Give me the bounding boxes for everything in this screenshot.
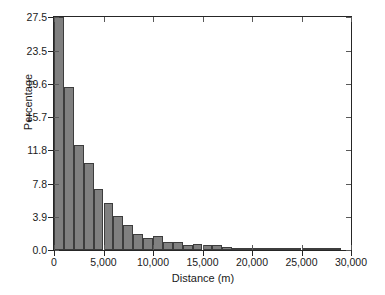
- y-tick-label: 11.8: [27, 144, 47, 156]
- histogram-bar: [242, 248, 252, 250]
- y-tick-label: 27.5: [27, 11, 47, 23]
- histogram-bar: [282, 248, 292, 250]
- histogram-bar: [173, 242, 183, 250]
- x-tick-label: 0: [51, 256, 57, 268]
- histogram-bar: [74, 145, 84, 250]
- x-tick-mark-top: [153, 17, 154, 22]
- histogram-bar: [183, 245, 193, 250]
- histogram-bar: [222, 247, 232, 250]
- histogram-bar: [252, 248, 262, 250]
- histogram-bar: [123, 225, 133, 250]
- histogram-bar: [133, 234, 143, 250]
- histogram-bar: [331, 248, 341, 250]
- y-tick-mark-inner: [54, 184, 59, 185]
- x-tick-mark-inner: [302, 245, 303, 250]
- histogram-bar: [54, 17, 64, 250]
- histogram-bar: [153, 236, 163, 250]
- y-tick-mark-right: [346, 184, 351, 185]
- x-tick-mark-inner: [203, 245, 204, 250]
- x-tick-mark-inner: [153, 245, 154, 250]
- x-axis-label: Distance (m): [53, 272, 353, 284]
- x-tick-label: 15,000: [186, 256, 218, 268]
- y-tick-label: 3.9: [32, 211, 47, 223]
- histogram-bar: [262, 248, 272, 250]
- x-tick-label: 30,000: [335, 256, 367, 268]
- histogram-bar: [163, 242, 173, 250]
- y-tick-mark-inner: [54, 84, 59, 85]
- y-tick-mark-inner: [54, 150, 59, 151]
- x-tick-mark-top: [203, 17, 204, 22]
- x-tick-mark-inner: [351, 245, 352, 250]
- x-tick-label: 25,000: [285, 256, 317, 268]
- histogram-bar: [232, 248, 242, 250]
- x-tick-mark-top: [54, 17, 55, 22]
- x-tick-mark-top: [104, 17, 105, 22]
- y-tick-mark-right: [346, 150, 351, 151]
- x-tick-mark-top: [302, 17, 303, 22]
- x-tick-label: 10,000: [137, 256, 169, 268]
- y-tick-label: 15.7: [27, 111, 47, 123]
- y-tick-mark-inner: [54, 217, 59, 218]
- y-tick-mark-right: [346, 217, 351, 218]
- histogram-bar: [321, 248, 331, 250]
- x-tick-mark-top: [351, 17, 352, 22]
- y-tick-mark-right: [346, 51, 351, 52]
- bar-series: [54, 17, 351, 250]
- histogram-bar: [292, 248, 302, 250]
- x-tick-mark-top: [252, 17, 253, 22]
- y-tick-mark-right: [346, 117, 351, 118]
- x-tick-mark-inner: [54, 245, 55, 250]
- y-tick-mark-inner: [54, 117, 59, 118]
- histogram-bar: [113, 216, 123, 250]
- y-tick-label: 7.8: [32, 178, 47, 190]
- histogram-bar: [311, 248, 321, 250]
- histogram-bar: [212, 245, 222, 250]
- plot-area: 0.03.97.811.815.719.623.527.5 05,00010,0…: [53, 16, 352, 251]
- x-tick-label: 5,000: [90, 256, 116, 268]
- histogram-bar: [203, 245, 213, 250]
- y-tick-mark-inner: [54, 51, 59, 52]
- y-tick-label: 0.0: [32, 244, 47, 256]
- histogram-bar: [272, 248, 282, 250]
- y-tick-label: 19.6: [27, 78, 47, 90]
- histogram-bar: [193, 244, 203, 250]
- histogram-bar: [104, 203, 114, 250]
- histogram-bar: [143, 238, 153, 250]
- histogram-bar: [94, 189, 104, 250]
- histogram-bar: [84, 163, 94, 250]
- histogram-bar: [64, 87, 74, 250]
- y-tick-mark-right: [346, 84, 351, 85]
- histogram-figure: Percentage 0.03.97.811.815.719.623.527.5…: [0, 0, 385, 295]
- x-tick-label: 20,000: [236, 256, 268, 268]
- x-tick-mark-inner: [252, 245, 253, 250]
- y-tick-label: 23.5: [27, 45, 47, 57]
- histogram-bar: [302, 248, 312, 250]
- x-tick-mark-inner: [104, 245, 105, 250]
